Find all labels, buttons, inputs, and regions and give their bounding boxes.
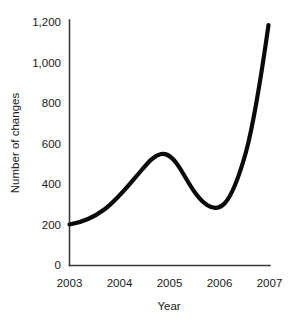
x-tick-label-2005: 2005: [157, 277, 183, 289]
x-tick-label-2003: 2003: [57, 277, 83, 289]
y-tick-label-800: 800: [42, 97, 61, 109]
y-tick-label-200: 200: [42, 219, 61, 231]
y-axis-title: Number of changes: [9, 93, 21, 194]
x-tick-label-2007: 2007: [257, 277, 283, 289]
chart-figure: 1,200 1,000 800 600 400 200 0 2003 2004 …: [0, 0, 292, 323]
line-chart-canvas: 1,200 1,000 800 600 400 200 0 2003 2004 …: [0, 0, 292, 323]
y-tick-label-600: 600: [42, 138, 61, 150]
x-axis-title: Year: [157, 300, 180, 312]
y-tick-label-1200: 1,200: [32, 16, 61, 28]
y-tick-label-400: 400: [42, 178, 61, 190]
x-tick-label-2004: 2004: [107, 277, 133, 289]
x-tick-label-2006: 2006: [207, 277, 233, 289]
y-tick-label-1000: 1,000: [32, 57, 61, 69]
chart-background: [0, 0, 292, 323]
y-tick-label-0: 0: [55, 259, 61, 271]
